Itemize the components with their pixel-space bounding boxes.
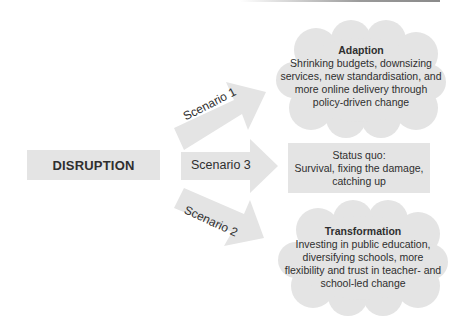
scenario-3-arrow: Scenario 3 — [181, 139, 281, 193]
adaption-title: Adaption — [276, 44, 446, 57]
transformation-line: diversifying schools, more — [278, 251, 448, 264]
disruption-label: DISRUPTION — [52, 158, 134, 173]
adaption-cloud: Adaption Shrinking budgets, downsizing s… — [276, 20, 446, 138]
scenario-2-arrow: Scenario 2 — [172, 188, 282, 253]
adaption-line: more online delivery through — [276, 83, 446, 96]
transformation-cloud: Transformation Investing in public educa… — [278, 200, 448, 316]
transformation-line: flexibility and trust in teacher- and — [278, 264, 448, 277]
transformation-line: school-led change — [278, 277, 448, 290]
status-quo-line: catching up — [332, 175, 386, 188]
transformation-line: Investing in public education, — [278, 238, 448, 251]
scenario-3-label: Scenario 3 — [191, 158, 251, 172]
status-quo-title: Status quo: — [332, 149, 385, 162]
disruption-box: DISRUPTION — [27, 150, 160, 180]
top-rule-divider — [240, 0, 440, 2]
adaption-line: Shrinking budgets, downsizing — [276, 57, 446, 70]
adaption-text: Adaption Shrinking budgets, downsizing s… — [276, 44, 446, 109]
status-quo-line: Survival, fixing the damage, — [295, 162, 424, 175]
transformation-title: Transformation — [278, 225, 448, 238]
transformation-text: Transformation Investing in public educa… — [278, 225, 448, 290]
adaption-line: services, new standardisation, and — [276, 70, 446, 83]
adaption-line: policy-driven change — [276, 96, 446, 109]
status-quo-box: Status quo: Survival, fixing the damage,… — [288, 143, 430, 193]
